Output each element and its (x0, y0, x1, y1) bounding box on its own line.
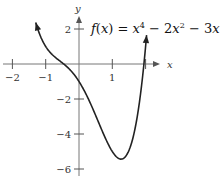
y-axis-arrow-icon (76, 16, 82, 23)
function-equation: f(x) = x4 − 2x2 − 3x − 1 (90, 21, 224, 36)
y-tick-label: 2 (65, 24, 71, 35)
x-tick-labels: −2−11 (5, 72, 115, 83)
eq-eq: ) = (108, 21, 132, 36)
y-tick-labels: 2−2−4−6 (56, 24, 71, 175)
y-axis-label: y (74, 3, 81, 14)
eq-term2: − 2 (145, 21, 172, 36)
curve-left-arrow-icon (35, 22, 41, 31)
y-tick-label: −6 (56, 164, 71, 175)
x-tick-label: −1 (38, 72, 53, 83)
function-plot: −2−11 2−2−4−6 x y f(x) = x4 − 2x2 − 3x −… (0, 0, 224, 176)
eq-term3: − 3 (185, 21, 212, 36)
x-axis-label: x (167, 59, 173, 70)
x-axis-arrow-icon (153, 61, 160, 67)
x-tick-label: 1 (109, 72, 115, 83)
function-curve (36, 22, 147, 159)
y-axis (76, 16, 82, 176)
x-axis (3, 61, 160, 67)
x-tick-label: −2 (5, 72, 20, 83)
eq-term4: − 1 (220, 21, 224, 36)
y-tick-label: −4 (56, 129, 71, 140)
y-tick-label: −2 (56, 94, 71, 105)
